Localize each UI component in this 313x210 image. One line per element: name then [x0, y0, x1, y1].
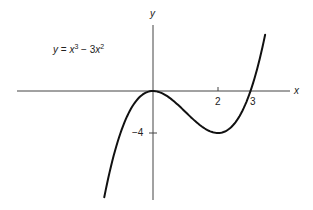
- equation-label: y = x3 − 3x2: [53, 45, 104, 55]
- x-tick-label-2: 2: [215, 97, 221, 107]
- x-tick-label-3: 3: [250, 97, 256, 107]
- x-axis-label: x: [294, 86, 299, 96]
- eq-minus: − 3: [78, 44, 95, 55]
- eq-power-2: 2: [100, 43, 104, 50]
- y-tick-label-neg4: −4: [132, 128, 143, 138]
- cubic-curve: [104, 35, 265, 198]
- y-axis-label: y: [150, 9, 155, 19]
- eq-equals: =: [58, 44, 69, 55]
- function-plot: [0, 0, 313, 210]
